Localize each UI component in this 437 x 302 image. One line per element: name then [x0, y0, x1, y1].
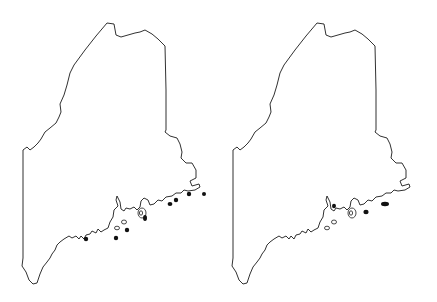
- left-map: [22, 23, 206, 284]
- occurrence-dot: [125, 228, 129, 232]
- occurrence-dot: [202, 192, 206, 196]
- right-map: [232, 23, 410, 284]
- left-map-dots: [84, 192, 206, 241]
- occurrence-dot: [143, 215, 147, 221]
- occurrence-dot: [187, 192, 191, 196]
- occurrence-dot: [174, 198, 178, 202]
- right-map-dots: [332, 202, 389, 214]
- maps-canvas: [0, 0, 437, 302]
- occurrence-dot: [381, 202, 389, 206]
- occurrence-dot: [332, 204, 336, 208]
- occurrence-dot: [84, 237, 88, 241]
- left-maine-outline: [22, 23, 200, 284]
- occurrence-dot: [363, 210, 368, 214]
- right-maine-outline: [232, 23, 410, 284]
- occurrence-dot: [114, 236, 118, 240]
- occurrence-dot: [168, 202, 173, 206]
- maine-distribution-maps: [0, 0, 437, 302]
